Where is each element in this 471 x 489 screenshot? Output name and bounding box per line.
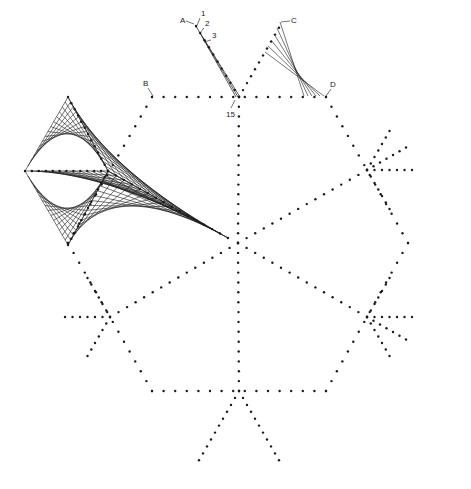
string-line <box>280 22 304 96</box>
guide-dot <box>218 424 220 426</box>
guide-dot <box>94 290 96 292</box>
guide-dot <box>411 169 413 171</box>
label-15: 15 <box>226 110 235 119</box>
guide-dot <box>237 154 239 156</box>
label-D: D <box>330 80 336 89</box>
guide-dot <box>385 348 387 350</box>
guide-dot <box>237 183 239 185</box>
guide-dot <box>123 145 125 147</box>
guide-dot <box>177 276 179 278</box>
guide-dot <box>194 267 196 269</box>
label-B: B <box>143 79 148 88</box>
guide-dot <box>238 360 240 362</box>
guide-dot <box>237 193 239 195</box>
guide-dot <box>238 390 240 392</box>
guide-dot <box>237 281 239 283</box>
guide-dot <box>197 96 199 98</box>
guide-dot <box>134 301 136 303</box>
guide-dot <box>254 68 256 70</box>
guide-dot <box>202 452 204 454</box>
guide-dot <box>209 96 211 98</box>
guide-dot <box>238 341 240 343</box>
guide-dot <box>330 380 332 382</box>
string-line <box>271 40 316 96</box>
guide-dot <box>313 96 315 98</box>
guide-dot <box>140 370 142 372</box>
guide-dot <box>162 390 164 392</box>
guide-dot <box>232 96 234 98</box>
guide-dot <box>405 338 407 340</box>
guide-dot <box>112 321 114 323</box>
guide-dot <box>79 316 81 318</box>
guide-dot <box>373 329 375 331</box>
guide-dot <box>341 125 343 127</box>
guide-dot <box>370 175 372 177</box>
guide-dot <box>86 355 88 357</box>
guide-dot <box>255 390 257 392</box>
guide-dot <box>117 154 119 156</box>
guide-dot <box>228 247 230 249</box>
guide-dot <box>330 106 332 108</box>
guide-dot <box>407 242 409 244</box>
guide-dot <box>160 286 162 288</box>
guide-dot <box>401 232 403 234</box>
guide-dot <box>226 411 228 413</box>
guide-dot <box>340 183 342 185</box>
guide-dot <box>331 296 333 298</box>
guide-dot <box>381 169 383 171</box>
guide-dot <box>392 154 394 156</box>
guide-dot <box>274 452 276 454</box>
guide-dot <box>306 203 308 205</box>
guide-dot <box>186 390 188 392</box>
guide-dot <box>370 309 372 311</box>
guide-dot <box>238 125 240 127</box>
guide-dot <box>151 390 153 392</box>
guide-dot <box>220 390 222 392</box>
label-2: 2 <box>205 19 210 28</box>
guide-dot <box>246 404 248 406</box>
guide-dot <box>341 360 343 362</box>
string-line <box>42 201 84 216</box>
guide-dot <box>232 390 234 392</box>
label-leader-15 <box>231 100 235 108</box>
guide-dot <box>411 316 413 318</box>
string-line <box>105 176 220 234</box>
guide-dot <box>237 232 239 234</box>
guide-dot <box>363 164 365 166</box>
guide-dot <box>238 350 240 352</box>
guide-dot <box>297 208 299 210</box>
guide-dot <box>237 291 239 293</box>
guide-dot <box>140 115 142 117</box>
guide-dot <box>290 96 292 98</box>
guide-dot <box>331 188 333 190</box>
guide-dot <box>245 237 247 239</box>
guide-dot <box>385 327 387 329</box>
guide-dot <box>267 96 269 98</box>
guide-dot <box>134 125 136 127</box>
guide-dot <box>258 424 260 426</box>
guide-dot <box>336 370 338 372</box>
string-line <box>76 184 132 230</box>
guide-dot <box>237 222 239 224</box>
guide-dot <box>238 380 240 382</box>
guide-dot <box>255 96 257 98</box>
guide-dot <box>245 247 247 249</box>
guide-dot <box>206 445 208 447</box>
label-1: 1 <box>201 9 206 18</box>
guide-dot <box>197 390 199 392</box>
guide-dot <box>349 179 351 181</box>
guide-dot <box>280 267 282 269</box>
guide-dot <box>347 135 349 137</box>
guide-dot <box>377 296 379 298</box>
guide-dot <box>373 156 375 158</box>
guide-dot <box>126 306 128 308</box>
guide-dot <box>396 169 398 171</box>
guide-dot <box>379 323 381 325</box>
guide-dot <box>379 161 381 163</box>
guide-dot <box>398 335 400 337</box>
guide-dot <box>237 203 239 205</box>
guide-dot <box>347 350 349 352</box>
guide-dot <box>288 213 290 215</box>
guide-dot <box>390 271 392 273</box>
string-line <box>277 28 308 96</box>
